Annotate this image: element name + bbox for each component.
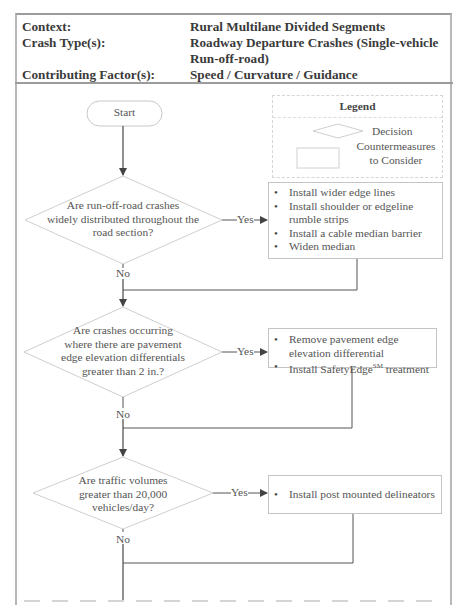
- countermeasures-box-2: Remove pavement edge elevation different…: [268, 328, 437, 368]
- countermeasure-item: Install wider edge lines: [269, 186, 442, 200]
- yes-label: Yes: [237, 213, 254, 225]
- no-label: No: [116, 267, 130, 279]
- legend-countermeasures-line1: Countermeasures: [346, 140, 446, 154]
- decision-1-line: widely distributed throughout the: [43, 213, 203, 227]
- decision-1-question: Are run-off-road crashes widely distribu…: [43, 199, 203, 240]
- countermeasure-item: Install shoulder or edgeline rumble stri…: [269, 200, 442, 227]
- no-label: No: [116, 533, 130, 545]
- start-label: Start: [87, 106, 162, 120]
- service-mark: SM: [373, 362, 383, 370]
- decision-3-line: Are traffic volumes: [58, 474, 188, 488]
- decision-2-line: greater than 2 in.?: [48, 365, 198, 379]
- decision-1-line: road section?: [43, 226, 203, 240]
- legend-countermeasures-line2: to Consider: [346, 154, 446, 168]
- decision-2-question: Are crashes occurring where there are pa…: [48, 324, 198, 378]
- decision-1-line: Are run-off-road crashes: [43, 199, 203, 213]
- countermeasure-text-suffix: treatment: [383, 363, 429, 375]
- yes-label: Yes: [231, 486, 248, 498]
- countermeasure-item: Install post mounted delineators: [269, 488, 441, 502]
- decision-3-line: vehicles/day?: [58, 501, 188, 515]
- countermeasures-box-1: Install wider edge lines Install shoulde…: [268, 182, 443, 259]
- legend-decision-label: Decision: [372, 125, 413, 137]
- yes-label: Yes: [237, 345, 254, 357]
- legend-countermeasures-label: Countermeasures to Consider: [346, 140, 446, 167]
- decision-2-line: Are crashes occurring: [48, 324, 198, 338]
- legend-divider: [273, 117, 442, 118]
- decision-3-question: Are traffic volumes greater than 20,000 …: [58, 474, 188, 515]
- countermeasure-item: Install SafetyEdgeSM treatment: [269, 360, 436, 376]
- legend-title: Legend: [273, 100, 442, 112]
- decision-2-line: where there are pavement: [48, 338, 198, 352]
- flowchart-connectors: [0, 0, 464, 613]
- countermeasures-box-3: Install post mounted delineators: [268, 475, 442, 514]
- decision-3-line: greater than 20,000: [58, 488, 188, 502]
- decision-2-line: edge elevation differentials: [48, 351, 198, 365]
- countermeasure-item: Remove pavement edge elevation different…: [269, 333, 436, 360]
- countermeasure-item: Install a cable median barrier: [269, 227, 442, 241]
- no-label: No: [116, 408, 130, 420]
- countermeasure-item: Widen median: [269, 240, 442, 254]
- countermeasure-text: Install SafetyEdge: [289, 363, 373, 375]
